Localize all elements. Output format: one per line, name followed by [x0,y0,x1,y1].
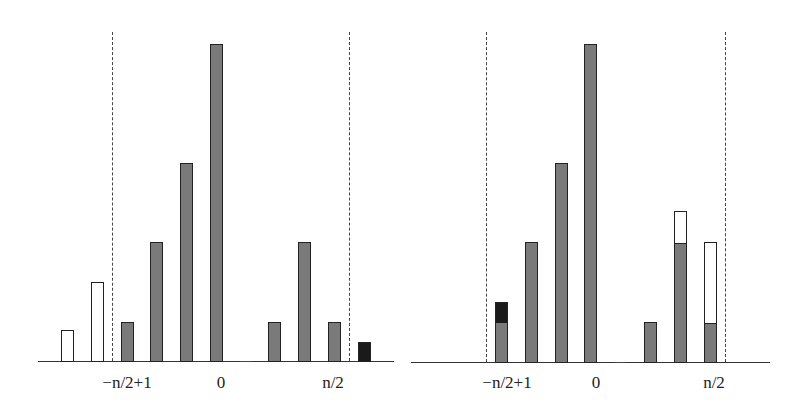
bar-gray [525,242,538,363]
zero-bar-marker [614,362,626,363]
left-boundary-dashed-line [486,32,487,362]
label-zero: 0 [592,373,601,393]
bar-gray-peak [584,44,597,363]
label-n-half: n/2 [703,373,725,393]
right-boundary-dashed-line [725,32,726,362]
right-panel: −n/2+1 0 n/2 [0,0,798,413]
bar-gray-with-white-stack [674,211,687,363]
bar-gray [644,322,657,363]
bar-gray [555,163,568,363]
bar-gray-with-white-stack [704,242,717,363]
label-neg-n-half-plus-one: −n/2+1 [482,373,531,393]
bar-gray-with-black-stack [495,302,508,363]
